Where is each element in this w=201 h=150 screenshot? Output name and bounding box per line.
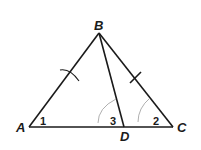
diagram-canvas: B A C D 1 3 2 bbox=[0, 0, 201, 150]
angle-label-2: 2 bbox=[153, 115, 159, 127]
angle-arc-2 bbox=[138, 98, 150, 122]
tick-mark-ab bbox=[60, 70, 79, 81]
vertex-label-b: B bbox=[94, 18, 103, 33]
vertex-label-d: D bbox=[120, 129, 130, 144]
segment-bc bbox=[99, 33, 173, 127]
segment-ab bbox=[29, 33, 99, 127]
triangle-diagram: B A C D 1 3 2 bbox=[0, 0, 201, 150]
segment-bd bbox=[99, 33, 124, 127]
angle-label-1: 1 bbox=[40, 115, 46, 127]
angle-label-3: 3 bbox=[110, 115, 116, 127]
vertex-label-a: A bbox=[15, 120, 25, 135]
vertex-label-c: C bbox=[177, 120, 187, 135]
